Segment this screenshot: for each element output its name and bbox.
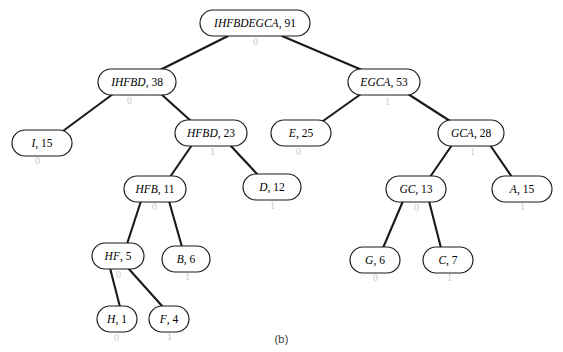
node-label-gca: GCA, 28: [451, 126, 492, 139]
tree-edge-gc-g: [383, 201, 403, 248]
tree-edge-egca-gca: [408, 94, 450, 121]
tree-edge-hfbd-d: [230, 145, 258, 175]
tree-node-gca[interactable]: GCA, 28: [438, 120, 504, 146]
tree-node-i[interactable]: I, 15: [12, 130, 72, 156]
tree-node-gc[interactable]: GC, 13: [386, 176, 446, 202]
node-label-i: I, 15: [30, 136, 52, 149]
node-label-hfbd: HFBD, 23: [186, 126, 235, 139]
node-label-gc: GC, 13: [399, 182, 432, 195]
node-label-e: E, 25: [288, 126, 314, 139]
tree-node-hfb[interactable]: HFB, 11: [124, 176, 186, 202]
tree-canvas: IHFBDEGCA, 91IHFBD, 38EGCA, 53I, 15HFBD,…: [0, 0, 563, 352]
tree-node-e[interactable]: E, 25: [271, 120, 331, 146]
tree-node-d[interactable]: D, 12: [243, 174, 301, 200]
tree-edge-hfb-hf: [127, 201, 141, 244]
tree-node-b[interactable]: B, 6: [162, 246, 210, 272]
tree-node-a[interactable]: A, 15: [492, 176, 552, 202]
node-label-ihfbd: IHFBD, 38: [110, 75, 163, 88]
tree-edge-gca-a: [490, 145, 512, 177]
tree-edge-hf-f: [128, 268, 163, 307]
node-label-d: D, 12: [258, 180, 285, 193]
node-label-c: C, 7: [438, 253, 457, 266]
tree-edge-gca-gc: [430, 145, 452, 177]
tree-edge-ihfbd-i: [63, 94, 113, 131]
node-label-g: G, 6: [365, 253, 385, 266]
tree-node-g[interactable]: G, 6: [350, 247, 400, 273]
figure-caption: (b): [0, 333, 563, 345]
tree-edge-ihfbd-hfbd: [161, 94, 191, 121]
tree-node-f[interactable]: F, 4: [149, 306, 189, 332]
tree-node-egca[interactable]: EGCA, 53: [348, 69, 420, 95]
node-label-hf: HF, 5: [104, 249, 132, 262]
tree-edge-root-ihfbd: [160, 36, 228, 70]
tree-node-hfbd[interactable]: HFBD, 23: [175, 120, 247, 146]
tree-node-c[interactable]: C, 7: [423, 247, 473, 273]
tree-node-h[interactable]: H, 1: [97, 306, 137, 332]
tree-edge-hf-h: [110, 268, 120, 307]
node-label-hfb: HFB, 11: [134, 182, 174, 195]
tree-node-hf[interactable]: HF, 5: [92, 243, 144, 269]
node-label-root: IHFBDEGCA, 91: [213, 16, 296, 29]
tree-edge-hfbd-hfb: [170, 145, 192, 177]
tree-edge-root-egca: [282, 36, 362, 70]
node-label-h: H, 1: [106, 312, 127, 325]
tree-edge-gc-c: [429, 201, 441, 248]
huffman-tree-figure: IHFBDEGCA, 91IHFBD, 38EGCA, 53I, 15HFBD,…: [0, 0, 563, 352]
tree-edge-hfb-b: [169, 201, 182, 247]
tree-node-root[interactable]: IHFBDEGCA, 91: [200, 10, 310, 36]
node-label-a: A, 15: [509, 182, 535, 195]
node-label-egca: EGCA, 53: [359, 75, 408, 88]
node-label-b: B, 6: [177, 252, 196, 265]
tree-edge-egca-e: [323, 94, 361, 121]
node-label-f: F, 4: [159, 312, 179, 325]
tree-node-ihfbd[interactable]: IHFBD, 38: [98, 69, 176, 95]
tree-nodes: IHFBDEGCA, 91IHFBD, 38EGCA, 53I, 15HFBD,…: [12, 10, 552, 332]
